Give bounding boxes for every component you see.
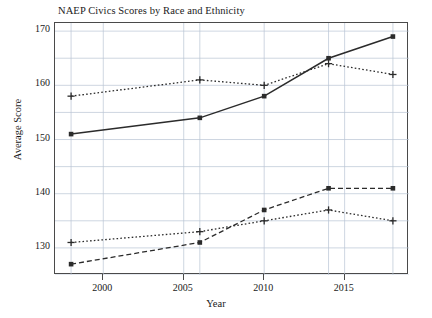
y-tick-label: 160 bbox=[20, 77, 50, 88]
x-tick-mark bbox=[263, 274, 264, 280]
x-tick-label: 2015 bbox=[324, 282, 364, 293]
x-tick-label: 2005 bbox=[163, 282, 203, 293]
x-tick-label: 2000 bbox=[82, 282, 122, 293]
x-tick-label: 2010 bbox=[243, 282, 283, 293]
x-tick-mark bbox=[102, 274, 103, 280]
series-3 bbox=[69, 186, 395, 266]
series-2 bbox=[67, 206, 396, 246]
plot-area bbox=[54, 22, 408, 274]
y-tick-label: 130 bbox=[20, 240, 50, 251]
x-tick-mark bbox=[344, 274, 345, 280]
chart-title: NAEP Civics Scores by Race and Ethnicity bbox=[58, 5, 245, 16]
y-axis-label: Average Score bbox=[12, 82, 23, 178]
series-1 bbox=[67, 60, 396, 100]
x-axis-label: Year bbox=[0, 298, 432, 309]
y-tick-label: 150 bbox=[20, 132, 50, 143]
plot-svg bbox=[55, 23, 409, 275]
y-tick-label: 170 bbox=[20, 23, 50, 34]
chart-container: NAEP Civics Scores by Race and Ethnicity… bbox=[0, 0, 432, 318]
grid-lines bbox=[55, 23, 409, 275]
x-tick-mark bbox=[183, 274, 184, 280]
y-tick-label: 140 bbox=[20, 186, 50, 197]
